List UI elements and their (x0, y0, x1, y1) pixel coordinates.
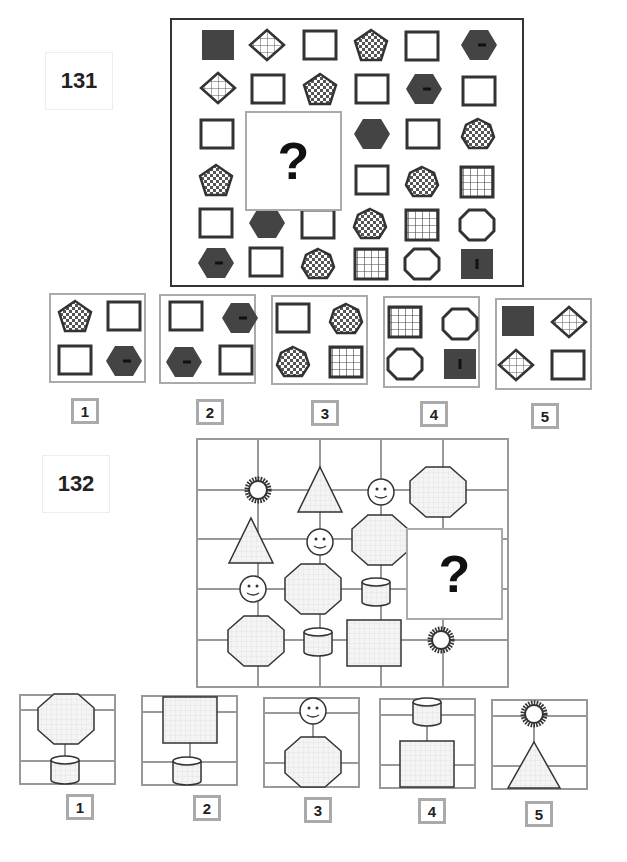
option-131-4 (384, 297, 479, 387)
option-label-132-2[interactable]: 2 (193, 795, 221, 821)
option-131-2 (160, 295, 258, 383)
question-mark-132: ? (407, 529, 502, 619)
option-label-131-3[interactable]: 3 (311, 400, 339, 426)
option-132-5 (492, 700, 587, 789)
option-label-131-4[interactable]: 4 (420, 401, 448, 427)
option-132-2 (142, 696, 237, 785)
option-label-131-2[interactable]: 2 (196, 399, 224, 425)
option-label-132-5[interactable]: 5 (525, 801, 553, 827)
option-label-132-3[interactable]: 3 (304, 797, 332, 823)
option-132-3 (264, 698, 359, 787)
option-131-3 (272, 296, 367, 384)
option-label-131-5[interactable]: 5 (531, 403, 559, 429)
option-131-5 (496, 299, 591, 389)
option-132-4 (380, 698, 475, 788)
option-label-132-4[interactable]: 4 (418, 798, 446, 824)
option-131-1 (50, 294, 145, 382)
option-132-1 (20, 694, 115, 784)
option-label-132-1[interactable]: 1 (66, 794, 94, 820)
question-mark-131: ? (246, 112, 341, 210)
option-label-131-1[interactable]: 1 (71, 398, 99, 424)
